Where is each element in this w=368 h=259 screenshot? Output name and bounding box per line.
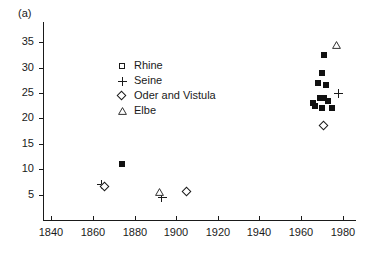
legend-marker (116, 73, 130, 88)
x-tick-label: 1960 (281, 226, 321, 238)
x-tick-label: 1940 (239, 226, 279, 238)
filled-square-icon (329, 105, 335, 111)
legend-label: Oder and Vistula (116, 88, 216, 103)
open-diamond-icon (181, 187, 191, 197)
y-tick-label: 30 (2, 61, 34, 73)
open-diamond-icon (100, 182, 110, 192)
y-tick-label: 25 (2, 86, 34, 98)
x-tick-label: 1980 (323, 226, 363, 238)
y-tick-label: 35 (2, 35, 34, 47)
plot-area (43, 22, 355, 220)
legend: RhineSeineOder and VistulaElbe (116, 58, 216, 118)
x-tick-label: 1900 (156, 226, 196, 238)
y-tick-label: 15 (2, 137, 34, 149)
x-tick-label: 1920 (198, 226, 238, 238)
filled-square-icon (319, 70, 325, 76)
legend-item-oder-and-vistula: Oder and Vistula (116, 88, 216, 103)
legend-item-elbe: Elbe (116, 103, 216, 118)
legend-marker (116, 88, 130, 103)
legend-marker (116, 58, 130, 73)
y-tick-label: 20 (2, 111, 34, 123)
x-tick-label: 1880 (115, 226, 155, 238)
filled-square-icon (315, 80, 321, 86)
filled-square-icon (319, 105, 325, 111)
panel-label: (a) (18, 7, 31, 19)
filled-square-icon (325, 98, 331, 104)
legend-item-rhine: Rhine (116, 58, 216, 73)
open-square-icon (119, 63, 125, 69)
x-tick-label: 1860 (73, 226, 113, 238)
scatter-chart-figure: (a) 5101520253035 1840186018801900192019… (0, 0, 368, 259)
legend-marker (116, 103, 130, 118)
open-triangle-icon (118, 107, 127, 115)
filled-square-icon (119, 161, 125, 167)
open-triangle-icon (155, 188, 164, 196)
filled-square-icon (312, 103, 318, 109)
filled-square-icon (323, 82, 329, 88)
filled-square-icon (321, 52, 327, 58)
y-tick-label: 5 (2, 188, 34, 200)
legend-item-seine: Seine (116, 73, 216, 88)
x-tick-label: 1840 (31, 226, 71, 238)
x-axis-line (43, 220, 356, 221)
open-diamond-icon (117, 91, 127, 101)
open-diamond-icon (318, 121, 328, 131)
open-triangle-icon (332, 41, 341, 49)
y-tick-label: 10 (2, 162, 34, 174)
